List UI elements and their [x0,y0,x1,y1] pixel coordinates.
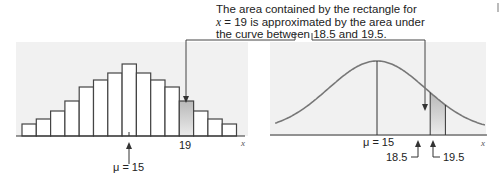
histogram-bar [94,80,108,136]
histogram-bar-highlight [179,101,193,136]
curve-panel [270,42,486,136]
histogram-highlight-label: 19 [179,139,191,151]
curve-mu-label: μ = 15 [363,136,394,148]
histogram-bar [65,101,79,136]
curve-upper-label: 19.5 [443,151,464,163]
histogram-mu-label: μ = 15 [113,161,144,173]
lower-bound-pointer [411,146,418,157]
histogram-bar [136,73,150,136]
histogram-x-label: x [240,138,245,148]
histogram-bar [165,87,179,136]
mu-arrow-head-icon [126,142,132,149]
figure: 19 x μ = 15 x μ = 15 18.5 19.5 [0,0,500,173]
histogram-bar [79,87,93,136]
curve-x-label: x [480,138,485,148]
histogram-bar [36,119,50,136]
lower-bound-arrow-icon [415,140,421,147]
histogram-bar [194,111,208,136]
upper-bound-pointer [433,146,440,157]
histogram-bar [208,119,222,136]
histogram-bar [151,80,165,136]
histogram-bar [22,124,36,136]
upper-bound-arrow-icon [430,140,436,147]
histogram-bar [51,111,65,136]
histogram-bar [222,124,236,136]
histogram-bar [108,73,122,136]
histogram-bar [122,64,136,136]
curve-lower-label: 18.5 [386,151,407,163]
